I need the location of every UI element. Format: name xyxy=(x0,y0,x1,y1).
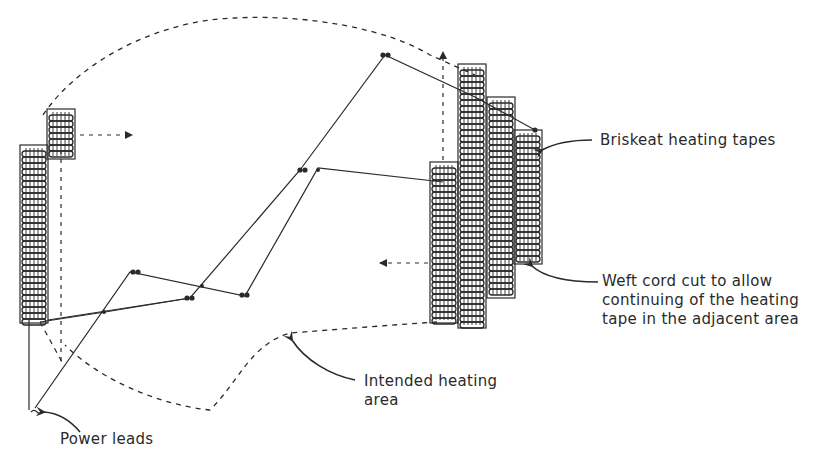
power-lead-end xyxy=(31,411,43,414)
left-tape-tall xyxy=(20,145,48,325)
intended-callout-arrow xyxy=(292,340,355,380)
wire-c xyxy=(48,298,190,320)
briskeat-callout-arrow xyxy=(542,140,592,150)
node xyxy=(380,52,385,57)
diagram-canvas: Briskeat heating tapes Weft cord cut to … xyxy=(0,0,817,460)
heating-tapes-group xyxy=(20,64,542,328)
wire-network xyxy=(29,55,535,410)
weft-callout-arrow xyxy=(532,266,598,282)
right-tape-4 xyxy=(514,130,542,264)
intended-label-line2: area xyxy=(364,391,399,410)
intended-label-line1: Intended heating xyxy=(364,372,497,391)
node xyxy=(135,269,140,274)
node xyxy=(239,292,244,297)
node xyxy=(189,295,194,300)
node xyxy=(385,52,390,57)
power-callout-arrow xyxy=(44,412,80,432)
weft-label-line1: Weft cord cut to allow xyxy=(602,272,772,291)
node xyxy=(184,295,189,300)
right-tape-1 xyxy=(430,162,458,324)
right-tape-2 xyxy=(458,64,486,328)
diagram-svg xyxy=(0,0,817,460)
node xyxy=(102,310,106,314)
intended-area-boundary-left xyxy=(40,322,62,362)
node xyxy=(532,127,537,132)
node xyxy=(302,167,307,172)
node xyxy=(244,292,249,297)
left-tape-small xyxy=(47,109,75,159)
power-leads-label: Power leads xyxy=(60,430,153,449)
weft-label-line3: tape in the adjacent area xyxy=(602,310,799,329)
node xyxy=(130,269,135,274)
right-tape-3 xyxy=(487,97,515,298)
node xyxy=(316,168,320,172)
weft-label-line2: continuing of the heating xyxy=(602,291,799,310)
briskeat-label: Briskeat heating tapes xyxy=(600,131,776,150)
intended-area-boundary xyxy=(43,17,475,410)
node xyxy=(297,167,302,172)
node xyxy=(200,284,204,288)
